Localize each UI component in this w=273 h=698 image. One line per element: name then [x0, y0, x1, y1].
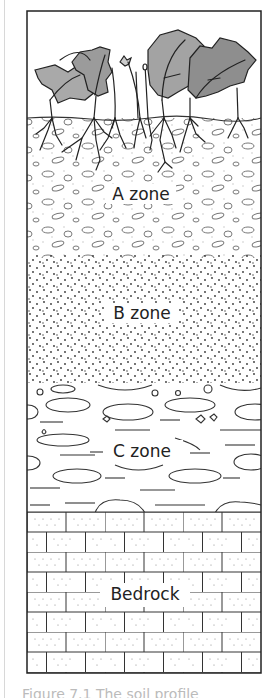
b-zone-label: B zone — [113, 303, 171, 323]
figure-caption: Figure 7.1 The soil profile — [22, 686, 252, 698]
a-zone-label: A zone — [112, 184, 170, 204]
c-zone-label: C zone — [113, 441, 171, 461]
soil-profile-diagram: A zone B zone C zone Bedrock — [0, 0, 273, 698]
bedrock-label: Bedrock — [110, 584, 179, 604]
